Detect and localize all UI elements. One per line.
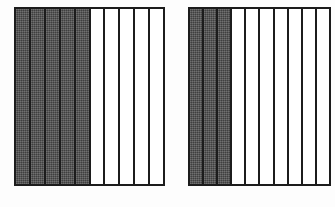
unshaded-strip	[289, 9, 303, 184]
unshaded-strip	[91, 9, 106, 184]
shaded-strip	[46, 9, 61, 184]
unshaded-strip	[317, 9, 329, 184]
shaded-strip	[190, 9, 204, 184]
fraction-bars-figure	[0, 0, 335, 207]
fraction-bar-right	[188, 7, 331, 186]
shaded-strip	[218, 9, 232, 184]
unshaded-strip	[105, 9, 120, 184]
unshaded-strip	[303, 9, 317, 184]
unshaded-strip	[232, 9, 246, 184]
shaded-strip	[31, 9, 46, 184]
unshaded-strip	[246, 9, 260, 184]
unshaded-strip	[150, 9, 163, 184]
fraction-bar-left	[14, 7, 165, 186]
unshaded-strip	[260, 9, 274, 184]
unshaded-strip	[275, 9, 289, 184]
shaded-strip	[204, 9, 218, 184]
unshaded-strip	[135, 9, 150, 184]
unshaded-strip	[120, 9, 135, 184]
shaded-strip	[76, 9, 91, 184]
shaded-strip	[16, 9, 31, 184]
shaded-strip	[61, 9, 76, 184]
